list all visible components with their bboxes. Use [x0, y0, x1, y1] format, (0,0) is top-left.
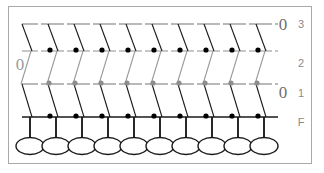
edge-dot-level-2-col-5: [150, 80, 155, 85]
node-ellipse-2[interactable]: [42, 138, 70, 155]
edge-dot-level-3-col-4: [125, 47, 130, 52]
edge-level-3-col-2: [48, 24, 58, 51]
edge-level-2-col-10: [255, 51, 265, 84]
edge-level-3-col-6: [152, 24, 162, 51]
edge-level-1-col-1: [22, 84, 32, 117]
edge-level-3-col-4: [100, 24, 110, 51]
edge-level-1-col-5: [126, 84, 136, 117]
edge-level-3-col-10: [256, 24, 266, 51]
edge-level-2-col-8: [203, 51, 213, 84]
lattice-diagram-figure: 000 3 2 1 F: [0, 0, 324, 173]
end-marker-zero-level-1: 0: [279, 83, 288, 102]
node-ellipse-5[interactable]: [120, 138, 148, 155]
edge-dot-level-3-col-3: [99, 47, 104, 52]
edge-dot-level-2-col-1: [46, 80, 51, 85]
edge-level-2-col-6: [151, 51, 161, 84]
edge-dot-level-1-col-2: [73, 113, 78, 118]
edge-dot-level-3-col-5: [151, 47, 156, 52]
node-ellipse-10[interactable]: [250, 138, 278, 155]
level-label-F: F: [294, 116, 308, 128]
edge-level-1-col-8: [204, 84, 214, 117]
end-marker-zero-level-3: 0: [279, 15, 288, 34]
edge-level-1-col-9: [230, 84, 240, 117]
edge-dot-level-3-col-6: [177, 47, 182, 52]
edge-level-1-col-7: [178, 84, 188, 117]
edge-dot-level-2-col-8: [228, 80, 233, 85]
node-ellipse-9[interactable]: [224, 138, 252, 155]
node-ellipse-6[interactable]: [146, 138, 174, 155]
edge-dot-level-3-col-9: [255, 47, 260, 52]
edge-dot-level-3-col-8: [229, 47, 234, 52]
edge-level-3-col-1: [22, 24, 32, 51]
node-ellipse-4[interactable]: [94, 138, 122, 155]
edge-dot-level-1-col-9: [255, 113, 260, 118]
edge-dot-level-2-col-9: [254, 80, 259, 85]
edge-level-2-col-5: [125, 51, 135, 84]
edge-dot-level-1-col-6: [177, 113, 182, 118]
edge-dot-level-1-col-5: [151, 113, 156, 118]
edge-dot-level-2-col-6: [176, 80, 181, 85]
edge-dot-level-1-col-7: [203, 113, 208, 118]
level-label-1: 1: [294, 87, 308, 99]
node-ellipse-1[interactable]: [16, 138, 44, 155]
node-ellipse-3[interactable]: [68, 138, 96, 155]
edge-dot-level-3-col-1: [47, 47, 52, 52]
edge-dot-level-1-col-4: [125, 113, 130, 118]
end-marker-zero-level-2: 0: [16, 55, 25, 74]
edge-dot-level-2-col-2: [72, 80, 77, 85]
edge-level-1-col-4: [100, 84, 110, 117]
edge-level-1-col-3: [74, 84, 84, 117]
edge-dot-level-2-col-4: [124, 80, 129, 85]
lattice-svg-canvas: 000: [0, 0, 324, 173]
edge-dot-level-1-col-8: [229, 113, 234, 118]
level-label-3: 3: [294, 18, 308, 30]
edge-level-1-col-6: [152, 84, 162, 117]
edge-level-3-col-9: [230, 24, 240, 51]
level-label-2: 2: [294, 57, 308, 69]
edge-level-2-col-2: [47, 51, 57, 84]
node-ellipse-8[interactable]: [198, 138, 226, 155]
edge-level-3-col-8: [204, 24, 214, 51]
edge-level-3-col-7: [178, 24, 188, 51]
edge-level-3-col-5: [126, 24, 136, 51]
edge-dot-level-2-col-3: [98, 80, 103, 85]
edge-level-2-col-3: [73, 51, 83, 84]
edge-level-1-col-10: [256, 84, 266, 117]
edge-dot-level-1-col-3: [99, 113, 104, 118]
edge-level-2-col-9: [229, 51, 239, 84]
edge-level-3-col-3: [74, 24, 84, 51]
edge-dot-level-3-col-2: [73, 47, 78, 52]
edge-dot-level-3-col-7: [203, 47, 208, 52]
node-ellipse-7[interactable]: [172, 138, 200, 155]
edge-level-1-col-2: [48, 84, 58, 117]
edge-level-2-col-4: [99, 51, 109, 84]
edge-level-2-col-7: [177, 51, 187, 84]
edge-dot-level-2-col-7: [202, 80, 207, 85]
edge-dot-level-1-col-1: [47, 113, 52, 118]
